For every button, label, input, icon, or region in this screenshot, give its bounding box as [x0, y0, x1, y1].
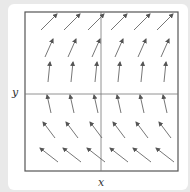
- vector-arrow: [92, 39, 100, 57]
- vector-arrow: [164, 62, 166, 82]
- vector-arrow: [133, 148, 151, 162]
- vector-arrow: [70, 95, 74, 113]
- vector-arrow: [48, 62, 50, 82]
- vector-field-plot: [0, 0, 190, 192]
- vector-arrow: [115, 39, 123, 57]
- vector-arrow: [113, 122, 125, 138]
- vector-arrow: [90, 122, 102, 138]
- vector-arrow: [117, 95, 121, 113]
- vector-arrow: [110, 148, 128, 162]
- vector-arrow: [140, 95, 144, 113]
- vector-arrow: [138, 39, 146, 57]
- vector-arrow: [47, 95, 51, 113]
- vector-arrow: [94, 95, 98, 113]
- plot-frame: [25, 12, 178, 171]
- vector-arrow: [141, 62, 143, 82]
- vector-arrow: [161, 39, 169, 57]
- vector-arrow: [159, 122, 171, 138]
- arrows-group: [40, 14, 174, 162]
- vector-arrow: [163, 95, 167, 113]
- vector-arrow: [43, 122, 55, 138]
- y-axis-label: y: [12, 86, 18, 99]
- vector-arrow: [134, 14, 150, 30]
- vector-arrow: [64, 14, 80, 30]
- vector-arrow: [41, 14, 57, 30]
- vector-arrow: [88, 14, 104, 30]
- vector-arrow: [68, 39, 76, 57]
- vector-arrow: [95, 62, 97, 82]
- vector-arrow: [66, 122, 78, 138]
- vector-arrow: [136, 122, 148, 138]
- vector-arrow: [40, 148, 58, 162]
- x-axis-label: x: [98, 176, 104, 189]
- vector-arrow: [71, 62, 73, 82]
- vector-arrow: [63, 148, 81, 162]
- vector-arrow: [118, 62, 120, 82]
- vector-arrow: [111, 14, 127, 30]
- vector-arrow: [156, 148, 174, 162]
- vector-arrow: [157, 14, 173, 30]
- vector-arrow: [45, 39, 53, 57]
- vector-arrow: [87, 148, 105, 162]
